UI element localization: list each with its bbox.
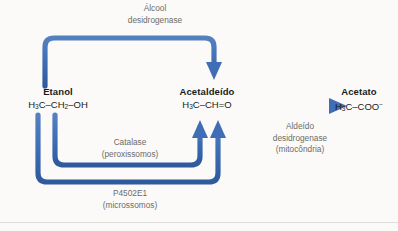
bottom-divider (0, 222, 398, 223)
adh-top-arrow (45, 38, 222, 86)
node-acetaldeido: Acetaldeído H3C–CH=O (152, 86, 262, 113)
node-etanol-name: Etanol (2, 86, 114, 98)
label-aldehyde-dehydrogenase: Aldeído desidrogenase (mitocôndria) (249, 121, 351, 156)
label-catalase-line1: Catalase (74, 137, 186, 149)
label-aldh-line1: Aldeído (249, 121, 351, 133)
node-acetato: Acetato H3C–COO− (322, 86, 396, 115)
node-acetaldeido-formula: H3C–CH=O (152, 98, 262, 113)
node-etanol: Etanol H3C–CH2–OH (2, 86, 114, 113)
label-alcohol-dehydrogenase: Álcool desidrogenase (93, 3, 217, 26)
label-p4502e1-line1: P4502E1 (74, 188, 186, 200)
label-adh-line2: desidrogenase (93, 15, 217, 27)
label-p4502e1: P4502E1 (microssomos) (74, 188, 186, 211)
label-aldh-line2: desidrogenase (249, 133, 351, 145)
label-aldh-line3: (mitocôndria) (249, 144, 351, 156)
arrow-layer (0, 0, 398, 231)
label-catalase: Catalase (peroxissomos) (74, 137, 186, 160)
label-catalase-line2: (peroxissomos) (74, 149, 186, 161)
node-acetato-name: Acetato (322, 86, 396, 98)
node-acetato-formula: H3C–COO− (322, 98, 396, 115)
node-acetaldeido-name: Acetaldeído (152, 86, 262, 98)
label-p4502e1-line2: (microssomos) (74, 200, 186, 212)
diagram-canvas: Etanol H3C–CH2–OH Acetaldeído H3C–CH=O A… (0, 0, 398, 231)
node-etanol-formula: H3C–CH2–OH (2, 98, 114, 113)
label-adh-line1: Álcool (93, 3, 217, 15)
